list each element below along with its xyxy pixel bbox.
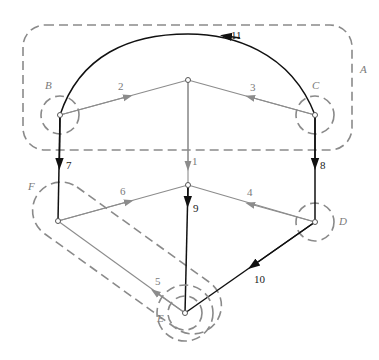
- edge-2: [60, 80, 188, 115]
- region-label-a: A: [359, 63, 367, 75]
- edge-label-2: 2: [118, 80, 124, 92]
- node-b: [58, 113, 63, 118]
- node-mid: [186, 183, 191, 188]
- edge-label-11: 11: [231, 29, 242, 41]
- node-top: [186, 78, 191, 83]
- region-label-f: F: [27, 180, 35, 192]
- edge-label-10: 10: [254, 273, 266, 285]
- edge-10: [185, 222, 315, 313]
- edge-label-9: 9: [193, 202, 199, 214]
- node-e: [183, 311, 188, 316]
- region-label-c: C: [312, 79, 320, 91]
- node-f: [56, 219, 61, 224]
- region-label-d: D: [338, 215, 347, 227]
- edge-label-7: 7: [66, 159, 72, 171]
- edge-9: [185, 185, 188, 313]
- graph-canvas: A B C D E F 1 2 3 4 5 6 7 8 9 10 11: [0, 0, 379, 360]
- edge-label-3: 3: [250, 81, 256, 93]
- node-d: [313, 220, 318, 225]
- edge-7: [58, 115, 60, 221]
- edge-label-4: 4: [247, 186, 253, 198]
- edge-label-5: 5: [155, 275, 161, 287]
- graph-diagram: A B C D E F 1 2 3 4 5 6 7 8 9 10 11: [0, 0, 379, 360]
- edge-label-1: 1: [192, 155, 198, 167]
- node-c: [313, 113, 318, 118]
- edge-label-8: 8: [320, 159, 326, 171]
- region-label-b: B: [45, 79, 52, 91]
- edge-5: [58, 221, 185, 313]
- region-label-e: E: [156, 312, 164, 324]
- edge-label-6: 6: [120, 185, 126, 197]
